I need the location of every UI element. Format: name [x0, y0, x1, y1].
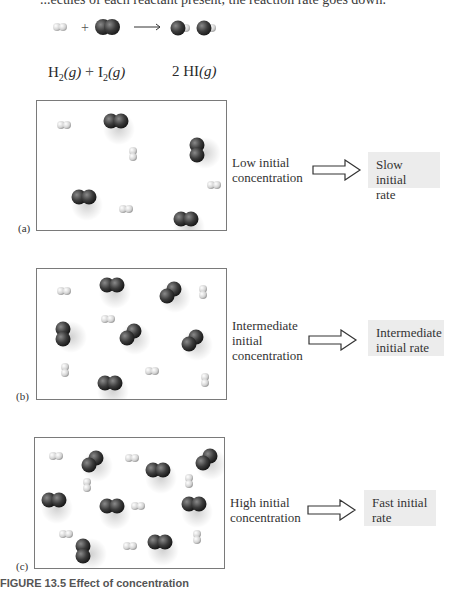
- hi-symbol: 2 HI: [172, 63, 199, 79]
- figure-caption: FIGURE 13.5 Effect of concentration: [0, 577, 189, 589]
- reaction-illustration: +: [52, 16, 232, 44]
- panel-b-box: [36, 268, 227, 400]
- panel-a-label: (a): [18, 222, 30, 234]
- panel-b-arrow-icon: [308, 329, 358, 351]
- panel-c-label: (c): [16, 560, 28, 572]
- rate-line: rate: [376, 187, 432, 202]
- conc-line: initial: [232, 333, 303, 348]
- conc-line: Intermediate: [232, 318, 303, 333]
- panel-c-box: [34, 437, 225, 569]
- product-equation: 2 HI(g): [172, 63, 217, 80]
- panel-a-concentration-label: Low initial concentration: [232, 155, 303, 185]
- rate-line: rate: [372, 510, 428, 525]
- panel-a-box: [36, 100, 227, 231]
- conc-line: High initial: [230, 495, 301, 510]
- panel-b-concentration-label: Intermediate initial concentration: [232, 318, 303, 363]
- reaction-molecules-icon: +: [52, 16, 232, 44]
- header-partial-text: ...ecules of each reactant present, the …: [40, 0, 386, 8]
- svg-text:+: +: [81, 20, 89, 35]
- conc-line: Low initial: [232, 155, 303, 170]
- panel-c-arrow-icon: [307, 499, 357, 521]
- reactants-equation: H2(g) + I2(g): [48, 63, 125, 83]
- panel-c-concentration-label: High initial concentration: [230, 495, 301, 525]
- panel-c-rate-box: Fast initial rate: [364, 490, 436, 526]
- hi-state: (g): [199, 63, 217, 79]
- rate-line: initial rate: [376, 340, 436, 355]
- panel-a-arrow-icon: [312, 159, 362, 181]
- conc-line: concentration: [230, 510, 301, 525]
- plus-sign: +: [85, 63, 94, 80]
- h2-symbol: H: [48, 64, 59, 80]
- panel-b-label: (b): [16, 390, 29, 402]
- i2-state: (g): [108, 64, 126, 80]
- rate-line: Slow initial: [376, 157, 432, 187]
- rate-line: Fast initial: [372, 495, 428, 510]
- panel-a-rate-box: Slow initial rate: [368, 152, 440, 188]
- panel-b-rate-box: Intermediate initial rate: [368, 320, 444, 356]
- conc-line: concentration: [232, 170, 303, 185]
- panel-a-molecules-icon: [37, 101, 226, 230]
- conc-line: concentration: [232, 348, 303, 363]
- h2-state: (g): [64, 64, 82, 80]
- rate-line: Intermediate: [376, 325, 436, 340]
- panel-b-molecules-icon: [37, 269, 226, 399]
- panel-c-molecules-icon: [35, 438, 224, 568]
